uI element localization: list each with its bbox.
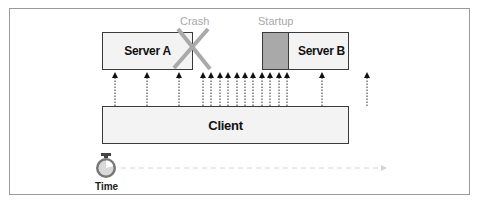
arrowhead-icon: [200, 72, 206, 78]
arrowhead-icon: [284, 72, 290, 78]
timeline-arrowhead-icon: [381, 165, 387, 171]
arrowhead-icon: [267, 72, 273, 78]
stopwatch-icon: [96, 153, 116, 178]
arrowhead-icon: [319, 72, 325, 78]
arrowhead-icon: [364, 72, 370, 78]
arrowhead-icon: [217, 72, 223, 78]
diagram-graphics: [0, 0, 480, 204]
arrowhead-icon: [144, 72, 150, 78]
crash-x-icon: [174, 29, 210, 69]
arrowhead-icon: [225, 72, 231, 78]
arrowhead-icon: [176, 72, 182, 78]
arrowhead-icon: [242, 72, 248, 78]
arrowhead-icon: [276, 72, 282, 78]
arrowhead-icon: [208, 72, 214, 78]
arrowhead-icon: [259, 72, 265, 78]
arrowhead-icon: [112, 72, 118, 78]
arrowhead-icon: [234, 72, 240, 78]
time-label: Time: [95, 181, 118, 192]
request-arrows: [112, 72, 370, 106]
arrowhead-icon: [250, 72, 256, 78]
